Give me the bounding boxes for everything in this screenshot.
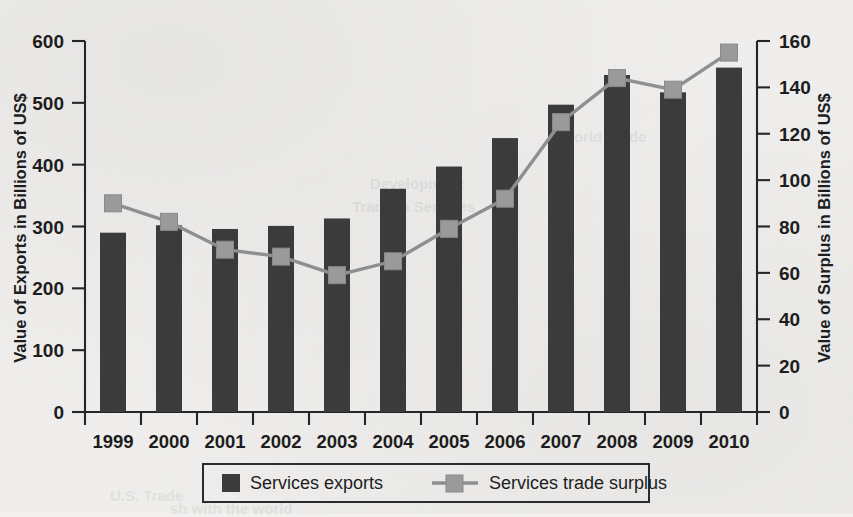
x-axis-label-2001: 2001	[204, 431, 245, 452]
left-tick-label-500: 500	[32, 93, 64, 114]
bar-2000[interactable]	[156, 225, 182, 412]
right-tick-label-20: 20	[779, 356, 800, 377]
x-axis-label-2007: 2007	[540, 431, 581, 452]
surplus-marker-2004[interactable]	[385, 253, 402, 270]
bar-2007[interactable]	[548, 105, 574, 412]
x-axis-label-2005: 2005	[428, 431, 469, 452]
right-tick-label-120: 120	[779, 124, 811, 145]
bar-2009[interactable]	[660, 92, 686, 412]
left-tick-label-400: 400	[32, 155, 64, 176]
left-tick-label-300: 300	[32, 217, 64, 238]
right-tick-label-160: 160	[779, 31, 811, 52]
surplus-marker-2000[interactable]	[161, 213, 178, 230]
legend-label-services-exports: Services exports	[250, 473, 383, 493]
x-axis-label-2003: 2003	[316, 431, 357, 452]
x-axis-label-1999: 1999	[92, 431, 133, 452]
x-axis-label-2006: 2006	[484, 431, 525, 452]
legend-marker-services-trade-surplus	[432, 475, 478, 492]
left-axis-title: Value of Exports in Billions of US$	[11, 93, 29, 363]
line-series-services-trade-surplus	[105, 44, 738, 284]
x-axis-label-2002: 2002	[260, 431, 301, 452]
bar-2005[interactable]	[436, 167, 462, 412]
surplus-marker-2006[interactable]	[497, 190, 514, 207]
x-axis-label-2009: 2009	[652, 431, 693, 452]
x-axis-label-2008: 2008	[596, 431, 637, 452]
bar-2008[interactable]	[604, 75, 630, 412]
surplus-marker-1999[interactable]	[105, 195, 122, 212]
surplus-polyline	[113, 53, 729, 276]
left-tick-label-0: 0	[53, 402, 64, 423]
right-tick-label-0: 0	[779, 402, 790, 423]
surplus-marker-2007[interactable]	[553, 114, 570, 131]
surplus-marker-2010[interactable]	[721, 44, 738, 61]
bar-2006[interactable]	[492, 138, 518, 412]
legend-swatch-services-exports	[222, 474, 240, 492]
surplus-marker-2009[interactable]	[665, 81, 682, 98]
right-tick-label-80: 80	[779, 217, 800, 238]
right-axis-title: Value of Surplus in Billions of US$	[815, 93, 833, 363]
left-tick-label-600: 600	[32, 31, 64, 52]
right-tick-label-60: 60	[779, 263, 800, 284]
right-axis-ticks: 020406080100120140160	[757, 31, 811, 423]
bar-series-services-exports	[100, 68, 742, 412]
x-axis-labels: 1999200020012002200320042005200620072008…	[92, 431, 749, 452]
surplus-marker-2003[interactable]	[329, 267, 346, 284]
bar-1999[interactable]	[100, 233, 126, 412]
surplus-marker-2001[interactable]	[217, 241, 234, 258]
legend-label-services-trade-surplus: Services trade surplus	[489, 473, 667, 493]
x-axis-label-2010: 2010	[708, 431, 749, 452]
right-tick-label-100: 100	[779, 170, 811, 191]
bar-2004[interactable]	[380, 189, 406, 412]
bar-2010[interactable]	[716, 68, 742, 412]
left-tick-label-200: 200	[32, 278, 64, 299]
right-tick-label-140: 140	[779, 77, 811, 98]
left-tick-label-100: 100	[32, 340, 64, 361]
surplus-marker-2005[interactable]	[441, 220, 458, 237]
right-tick-label-40: 40	[779, 309, 800, 330]
x-axis-label-2000: 2000	[148, 431, 189, 452]
x-axis-label-2004: 2004	[372, 431, 414, 452]
x-axis-ticks	[85, 412, 757, 425]
surplus-marker-2008[interactable]	[609, 70, 626, 87]
surplus-marker-2002[interactable]	[273, 248, 290, 265]
left-axis-ticks: 0100200300400500600	[32, 31, 85, 423]
bar-2003[interactable]	[324, 218, 350, 412]
